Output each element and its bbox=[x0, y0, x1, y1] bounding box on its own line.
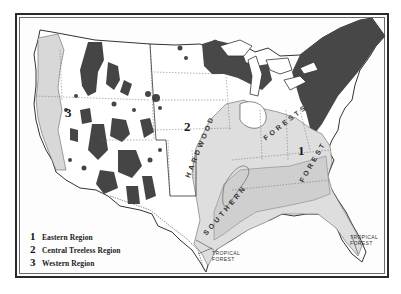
legend-number: 1 bbox=[30, 230, 42, 242]
tropical-east-line2: FOREST bbox=[350, 240, 378, 246]
legend-item-central: 2 Central Treeless Region bbox=[30, 243, 121, 256]
legend-label: Western Region bbox=[42, 259, 94, 268]
legend-number: 3 bbox=[30, 256, 42, 268]
legend-label: Central Treeless Region bbox=[42, 246, 121, 255]
legend-item-eastern: 1 Eastern Region bbox=[30, 230, 121, 243]
legend-label: Eastern Region bbox=[42, 233, 93, 242]
region-number-2: 2 bbox=[184, 119, 191, 135]
tropical-forest-west-label: TROPICAL FOREST bbox=[212, 250, 240, 262]
legend-item-western: 3 Western Region bbox=[30, 256, 121, 269]
tropical-west-line2: FOREST bbox=[212, 256, 240, 262]
tropical-forest-east-label: TROPICAL FOREST bbox=[350, 234, 378, 246]
legend-number: 2 bbox=[30, 243, 42, 255]
map-legend: 1 Eastern Region 2 Central Treeless Regi… bbox=[30, 230, 121, 269]
region-number-1: 1 bbox=[298, 143, 305, 159]
region-number-3: 3 bbox=[65, 105, 72, 121]
